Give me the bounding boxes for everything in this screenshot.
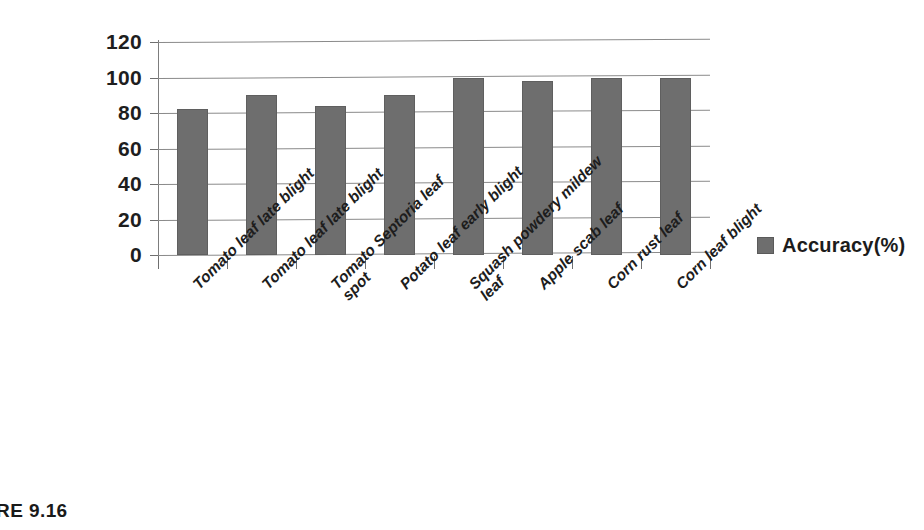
y-tick-label-80: 80 — [88, 102, 142, 123]
gridline-60 — [158, 145, 710, 149]
bar — [177, 109, 208, 255]
y-tick-label-0: 0 — [88, 244, 142, 265]
square-swatch-icon — [757, 237, 774, 254]
y-tick-label-100: 100 — [88, 67, 142, 88]
figure-caption: URE 9.16 — [0, 500, 68, 522]
y-tick-label-120: 120 — [88, 31, 142, 52]
gridline-100 — [158, 74, 710, 78]
x-tick-mark-0 — [158, 256, 159, 269]
y-tick-label-40: 40 — [88, 173, 142, 194]
gridline-120 — [158, 39, 710, 43]
figure-container: 120100806040200 Tomato leaf late blightT… — [0, 0, 924, 530]
gridline-80 — [158, 110, 710, 114]
y-tick-label-20: 20 — [88, 209, 142, 230]
chart-legend: Accuracy(%) — [757, 234, 905, 257]
legend-label-accuracy: Accuracy(%) — [782, 234, 905, 257]
plot-area — [158, 42, 710, 255]
y-tick-label-60: 60 — [88, 138, 142, 159]
